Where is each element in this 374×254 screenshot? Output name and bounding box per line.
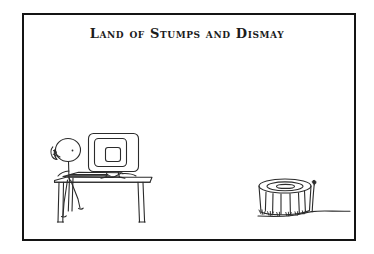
stump-ring-outer xyxy=(267,182,303,191)
grass-tuft-5 xyxy=(295,212,298,216)
figure-foot-right xyxy=(79,208,84,209)
grass-tuft-3 xyxy=(277,212,280,216)
desk xyxy=(55,177,153,222)
desk-leg-front-left-b xyxy=(63,182,64,222)
desk-leg-front-left xyxy=(58,182,59,222)
desk-scene-group xyxy=(51,134,152,223)
computer-monitor xyxy=(89,134,139,179)
desk-leg-back-left xyxy=(68,178,69,211)
desk-leg-front-right-b xyxy=(143,182,145,222)
monitor-screen-glow xyxy=(106,148,121,162)
stump-side-left xyxy=(259,186,261,212)
stump-bark-1 xyxy=(265,192,266,210)
desk-leg-front-right xyxy=(138,182,140,222)
figure-eye-icon xyxy=(72,150,74,152)
sapling-leaf xyxy=(312,180,316,184)
stump-bark-5 xyxy=(299,193,300,213)
comic-panel-root: Land of Stumps and Dismay xyxy=(0,0,374,254)
comic-artwork xyxy=(0,0,374,254)
tree-stump xyxy=(259,179,311,216)
keyboard-cable xyxy=(122,174,136,176)
grass-tuft-1 xyxy=(259,210,266,214)
stump-scene-group xyxy=(258,179,350,217)
sapling-stem xyxy=(312,185,314,212)
keyboard xyxy=(63,172,136,177)
figure-head xyxy=(56,139,81,162)
stump-bark-6 xyxy=(305,191,306,212)
monitor-screen xyxy=(95,139,127,167)
sapling-sprout xyxy=(312,180,316,211)
figure-foot-left xyxy=(62,216,67,217)
stump-ring-inner xyxy=(277,184,295,188)
stump-side-right xyxy=(310,186,312,210)
artwork-ink-group xyxy=(51,134,350,223)
